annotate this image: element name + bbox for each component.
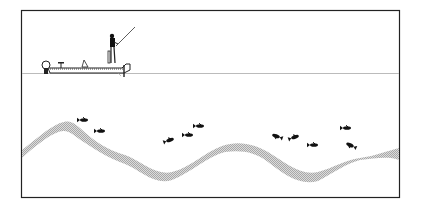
fish-icon (193, 123, 204, 128)
fishing-rod (116, 27, 135, 46)
fishing-illustration (0, 0, 422, 212)
fish-icon (307, 142, 318, 147)
fish-icon (345, 141, 357, 150)
fish-icon (340, 125, 351, 130)
fish-icon (271, 133, 283, 141)
fish-school (77, 117, 357, 150)
fish-icon (287, 133, 299, 141)
bass-boat (42, 60, 130, 77)
fish-icon (77, 117, 88, 122)
frame-border (22, 11, 400, 198)
bottom-contour (22, 121, 399, 182)
fish-icon (182, 132, 193, 137)
fish-icon (94, 128, 105, 133)
angler-figure (108, 34, 118, 63)
fish-icon (162, 136, 174, 144)
